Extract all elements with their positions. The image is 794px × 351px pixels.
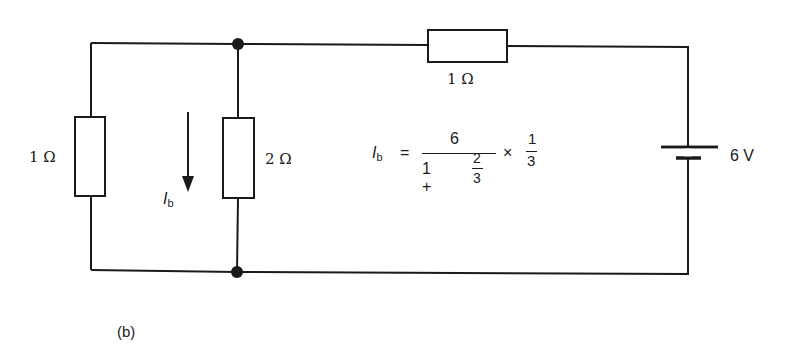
junction-dot-top xyxy=(232,38,244,50)
equation-inner-numerator: 2 xyxy=(473,150,481,166)
equation-factor-numerator: 1 xyxy=(528,130,536,147)
junction-dot-bottom xyxy=(231,266,243,278)
wire-bottom xyxy=(91,158,688,274)
equation-inner-denominator: 3 xyxy=(473,170,481,186)
current-label: Ib xyxy=(163,190,174,209)
top-resistor xyxy=(428,30,507,62)
top-resistor-label: 1 Ω xyxy=(447,70,474,88)
middle-resistor-label: 2 Ω xyxy=(265,150,292,168)
left-resistor-label: 1 Ω xyxy=(29,148,56,166)
equation-lhs-subscript: b xyxy=(376,151,382,163)
equation-lhs: Ib xyxy=(372,144,383,163)
main-fraction-bar xyxy=(422,153,496,154)
equation-factor-denominator: 3 xyxy=(527,152,535,169)
figure-caption: (b) xyxy=(117,323,135,340)
battery-icon xyxy=(661,146,718,158)
circuit-diagram xyxy=(0,0,794,351)
equation-numerator: 6 xyxy=(450,130,459,148)
inner-fraction-bar xyxy=(472,168,483,169)
equation-denominator-prefix: 1 + xyxy=(422,160,431,196)
left-resistor xyxy=(75,117,105,196)
battery-label: 6 V xyxy=(730,147,754,165)
wire-top-left xyxy=(91,43,428,45)
middle-resistor xyxy=(223,118,254,198)
current-subscript: b xyxy=(167,197,173,209)
current-arrow-icon xyxy=(182,112,194,192)
equation-times: × xyxy=(503,144,512,162)
equation-equals: = xyxy=(400,144,409,162)
